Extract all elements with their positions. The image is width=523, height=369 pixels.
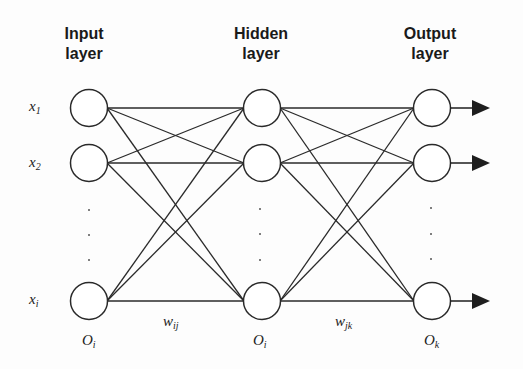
output-node-1 xyxy=(414,90,451,127)
hidden-node-2 xyxy=(244,145,281,182)
title-line: layer xyxy=(380,44,480,64)
hidden-node-j xyxy=(244,283,281,320)
input-node-1 xyxy=(71,90,108,127)
title-line: layer xyxy=(211,44,311,64)
output-arrow-icon xyxy=(450,155,490,171)
hidden-node-1 xyxy=(244,90,281,127)
input-label-x2: x2 xyxy=(29,154,41,171)
input-node-2 xyxy=(71,145,108,182)
output-arrow-icon xyxy=(450,293,490,309)
neural-network-diagram: Input layer Hidden layer Output layer x1… xyxy=(0,0,523,369)
weight-label-wij: wij xyxy=(163,313,179,330)
output-output-label: Ok xyxy=(424,332,439,349)
input-node-i xyxy=(71,283,108,320)
input-output-label: Oi xyxy=(82,332,96,349)
title-line: layer xyxy=(34,44,134,64)
hidden-output-label: Oi xyxy=(253,332,267,349)
hidden-layer-title: Hidden layer xyxy=(211,24,311,64)
output-node-2 xyxy=(414,145,451,182)
output-layer-title: Output layer xyxy=(380,24,480,64)
title-line: Output xyxy=(380,24,480,44)
output-arrow-icon xyxy=(450,100,490,116)
title-line: Hidden xyxy=(211,24,311,44)
input-label-xi: xi xyxy=(29,291,38,308)
weight-label-wjk: wjk xyxy=(335,313,352,330)
input-layer-title: Input layer xyxy=(34,24,134,64)
output-node-k xyxy=(414,283,451,320)
connections-input-hidden xyxy=(107,108,244,301)
connections-hidden-output xyxy=(280,108,414,301)
title-line: Input xyxy=(34,24,134,44)
input-label-x1: x1 xyxy=(29,98,41,115)
